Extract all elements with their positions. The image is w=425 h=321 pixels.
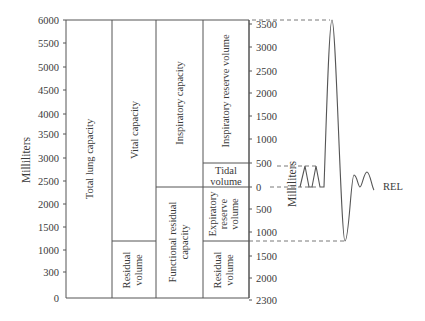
residual-volume-label-2a: Residual bbox=[212, 252, 223, 289]
residual-volume-label-1a: Residual bbox=[121, 252, 132, 289]
left-tick-4500: 4500 bbox=[38, 85, 59, 96]
left-tick-4000: 4000 bbox=[38, 109, 59, 120]
right-tick-1500-down: 1500 bbox=[256, 251, 277, 262]
right-tick-500-up: 500 bbox=[256, 158, 272, 169]
right-tick-3500: 3500 bbox=[256, 19, 277, 30]
erv-label-c: volume bbox=[229, 198, 240, 230]
left-axis: 6000 5500 5000 4500 4000 3500 3000 2500 … bbox=[20, 15, 66, 304]
residual-volume-label-2b: volume bbox=[224, 254, 235, 286]
right-tick-2000: 2000 bbox=[256, 88, 277, 99]
right-tick-2500: 2500 bbox=[256, 66, 277, 77]
left-tick-2000: 2000 bbox=[38, 199, 59, 210]
right-axis-label: Milliliters bbox=[286, 160, 298, 207]
left-tick-3000: 3000 bbox=[38, 153, 59, 164]
right-tick-1500: 1500 bbox=[256, 111, 277, 122]
lung-volumes-diagram: 6000 5500 5000 4500 4000 3500 3000 2500 … bbox=[0, 0, 425, 321]
inspiratory-capacity-label: Inspiratory capacity bbox=[174, 60, 185, 144]
right-axis: 3500 3000 2500 2000 1500 1000 500 0 500 … bbox=[249, 19, 298, 306]
left-tick-300: 300 bbox=[43, 267, 59, 278]
right-tick-2000-down: 2000 bbox=[256, 273, 277, 284]
frc-label-b: capacity bbox=[179, 224, 190, 260]
spirometry-trace bbox=[300, 20, 374, 241]
rel-label: REL bbox=[383, 181, 403, 192]
left-tick-1500: 1500 bbox=[38, 222, 59, 233]
tidal-volume-label-a: Tidal bbox=[215, 165, 237, 176]
right-tick-1000-down: 1000 bbox=[256, 227, 277, 238]
right-tick-0: 0 bbox=[256, 182, 261, 193]
total-lung-capacity-label: Total lung capacity bbox=[84, 118, 95, 199]
left-tick-0: 0 bbox=[54, 293, 59, 304]
erv-label-b: reserve bbox=[218, 199, 229, 230]
right-tick-1000: 1000 bbox=[256, 134, 277, 145]
left-tick-2500: 2500 bbox=[38, 176, 59, 187]
tidal-volume-label-b: volume bbox=[210, 176, 242, 187]
left-tick-5000: 5000 bbox=[38, 62, 59, 73]
left-tick-5500: 5500 bbox=[38, 38, 59, 49]
right-tick-2300-down: 2300 bbox=[256, 295, 277, 306]
left-tick-1000: 1000 bbox=[38, 245, 59, 256]
irv-label: Inspiratory reserve volume bbox=[220, 34, 231, 147]
left-axis-label: Milliliters bbox=[20, 136, 32, 183]
residual-volume-label-1b: volume bbox=[133, 254, 144, 286]
left-tick-3500: 3500 bbox=[38, 129, 59, 140]
vital-capacity-label: Vital capacity bbox=[129, 100, 140, 159]
volume-columns: Total lung capacity Vital capacity Resid… bbox=[66, 20, 249, 298]
left-tick-6000: 6000 bbox=[38, 15, 59, 26]
frc-label-a: Functional residual bbox=[167, 202, 178, 283]
right-tick-500-down: 500 bbox=[256, 204, 272, 215]
erv-label-a: Expiratory bbox=[207, 191, 218, 237]
right-tick-3000: 3000 bbox=[256, 42, 277, 53]
